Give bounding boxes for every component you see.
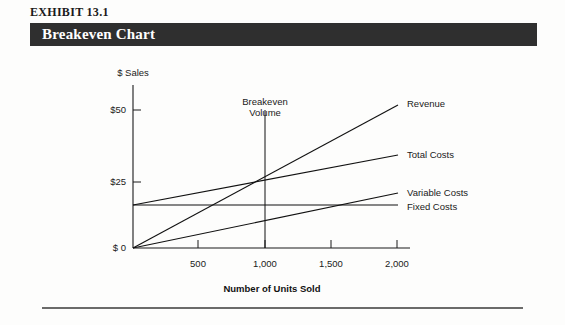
y-tick-label-25: $25 <box>110 176 126 187</box>
breakeven-volume-label-line2: Volume <box>249 107 281 118</box>
x-tick-label-500: 500 <box>190 258 206 269</box>
series-label-variable-costs: Variable Costs <box>407 187 468 198</box>
series-label-fixed-costs: Fixed Costs <box>407 201 457 212</box>
series-label-total-costs: Total Costs <box>407 149 454 160</box>
x-axis-title: Number of Units Sold <box>223 283 320 294</box>
exhibit-page: EXHIBIT 13.1 Breakeven Chart $50 $25 $ 0… <box>0 0 565 325</box>
y-axis-title: $ Sales <box>117 67 149 78</box>
x-tick-label-2000: 2,000 <box>385 258 409 269</box>
breakeven-volume-label-line1: Breakeven <box>242 96 287 107</box>
y-tick-label-0: $ 0 <box>113 242 126 253</box>
x-tick-label-1500: 1,500 <box>319 258 343 269</box>
x-tick-label-1000: 1,000 <box>253 258 277 269</box>
series-label-revenue: Revenue <box>407 98 445 109</box>
breakeven-chart: $50 $25 $ 0 500 1,000 1,500 2,000 $ Sale… <box>0 0 565 325</box>
y-tick-label-50: $50 <box>110 104 126 115</box>
chart-svg: $50 $25 $ 0 500 1,000 1,500 2,000 $ Sale… <box>0 0 565 325</box>
